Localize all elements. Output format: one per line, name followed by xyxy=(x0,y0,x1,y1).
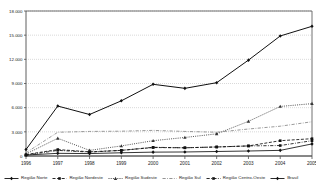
legend-item-regi-o-centro-oeste[interactable]: Região Centro-Oeste xyxy=(206,175,265,182)
y-tick-label: 0 xyxy=(20,154,23,159)
y-axis-tick-labels: 03.0006.0009.00012.00015.00018.000 xyxy=(9,9,23,159)
x-tick-label: 2000 xyxy=(148,161,159,166)
data-point-marker xyxy=(56,149,59,152)
chart-legend: Região NorteRegião NordesteRegião Sudest… xyxy=(0,170,316,186)
data-point-marker xyxy=(184,146,187,149)
data-point-marker xyxy=(212,177,215,180)
chart-plot-area: 03.0006.0009.00012.00015.00018.000 19961… xyxy=(0,0,316,186)
x-tick-label: 2002 xyxy=(212,161,223,166)
x-tick-label: 2004 xyxy=(275,161,286,166)
data-point-marker xyxy=(120,149,123,152)
x-axis xyxy=(26,156,312,159)
y-tick-label: 6.000 xyxy=(12,105,24,110)
x-tick-label: 2005 xyxy=(307,161,316,166)
x-tick-label: 1996 xyxy=(21,161,32,166)
x-axis-tick-labels: 1996199719981999200020012002200320042005 xyxy=(21,161,316,166)
legend-item-regi-o-norte[interactable]: Região Norte xyxy=(4,175,47,182)
data-point-marker xyxy=(10,176,13,180)
x-tick-label: 2001 xyxy=(180,161,191,166)
legend-item-regi-o-sul[interactable]: Região Sul xyxy=(162,175,201,182)
legend-key-triangle-icon xyxy=(108,175,123,182)
y-tick-label: 15.000 xyxy=(9,33,23,38)
legend-item-regi-o-sudeste[interactable]: Região Sudeste xyxy=(108,175,157,182)
legend-key-diamond-icon xyxy=(270,175,285,182)
data-point-marker xyxy=(279,139,282,142)
data-point-marker xyxy=(279,144,282,147)
legend-key-square-icon xyxy=(206,175,221,182)
y-tick-label: 12.000 xyxy=(9,57,23,62)
y-tick-label: 18.000 xyxy=(9,9,23,14)
legend-item-label: Região Nordeste xyxy=(69,175,103,181)
legend-key-diamond-icon xyxy=(4,175,19,182)
x-tick-label: 2003 xyxy=(243,161,254,166)
y-tick-label: 9.000 xyxy=(12,81,24,86)
data-point-marker xyxy=(311,139,314,142)
x-tick-label: 1998 xyxy=(84,161,95,166)
legend-item-label: Região Sudeste xyxy=(125,175,157,181)
x-tick-label: 1997 xyxy=(53,161,64,166)
data-point-marker xyxy=(247,145,250,148)
data-point-marker xyxy=(88,151,91,154)
legend-item-regi-o-nordeste[interactable]: Região Nordeste xyxy=(52,175,103,182)
data-point-marker xyxy=(114,176,117,179)
legend-item-label: Brasil xyxy=(287,175,298,181)
legend-item-brasil[interactable]: Brasil xyxy=(270,175,298,182)
data-point-marker xyxy=(25,154,28,157)
legend-item-label: Região Centro-Oeste xyxy=(223,175,265,181)
legend-item-label: Região Sul xyxy=(179,175,201,181)
legend-item-label: Região Norte xyxy=(21,175,47,181)
data-point-marker xyxy=(276,176,279,180)
data-point-marker xyxy=(152,146,155,149)
legend-key-square-icon xyxy=(52,175,67,182)
data-point-marker xyxy=(215,146,218,149)
line-chart: 03.0006.0009.00012.00015.00018.000 19961… xyxy=(0,0,316,186)
x-tick-label: 1999 xyxy=(116,161,127,166)
data-point-marker xyxy=(59,177,62,180)
legend-key-none-icon xyxy=(162,175,177,182)
y-axis xyxy=(24,11,26,156)
y-tick-label: 3.000 xyxy=(12,130,24,135)
